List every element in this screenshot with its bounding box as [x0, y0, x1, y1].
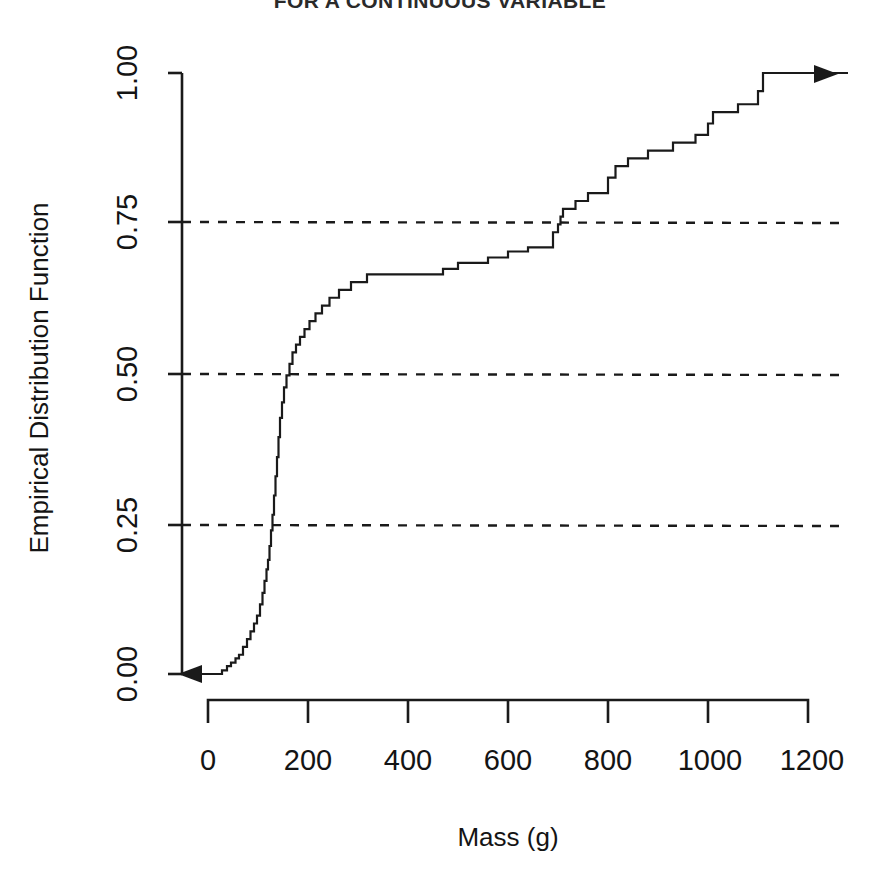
- y-tick-label-0-25: 0.25: [111, 497, 143, 553]
- y-tick-label-0-75: 0.75: [111, 194, 143, 250]
- right-arrowhead-icon: [814, 65, 838, 83]
- figure-container: FOR A CONTINUOUS VARIABLE: [0, 0, 880, 889]
- ecdf-chart: 1.00 0.75 0.50 0.25 0.00 0 200 400 600 8…: [0, 0, 880, 889]
- gridline-0-75: [182, 222, 846, 223]
- x-tick-label-1200: 1200: [780, 744, 845, 776]
- y-tick-labels: 1.00 0.75 0.50 0.25 0.00: [111, 45, 143, 702]
- x-tick-label-1000: 1000: [678, 744, 743, 776]
- x-tick-label-400: 400: [384, 744, 432, 776]
- x-axis-title: Mass (g): [457, 822, 558, 852]
- x-tick-label-0: 0: [200, 744, 216, 776]
- y-tick-label-0-50: 0.50: [111, 346, 143, 402]
- y-axis-title: Empirical Distribution Function: [24, 202, 54, 553]
- gridline-0-50: [182, 374, 846, 375]
- x-tick-label-200: 200: [284, 744, 332, 776]
- x-tick-label-600: 600: [484, 744, 532, 776]
- gridline-0-25: [182, 525, 846, 526]
- y-tick-label-0-00: 0.00: [111, 646, 143, 702]
- x-tick-label-800: 800: [584, 744, 632, 776]
- x-tick-labels: 0 200 400 600 800 1000 1200: [200, 744, 844, 776]
- y-axis: [168, 73, 182, 674]
- y-tick-label-1-00: 1.00: [111, 45, 143, 101]
- gridlines: [182, 222, 846, 526]
- x-axis: [208, 700, 808, 723]
